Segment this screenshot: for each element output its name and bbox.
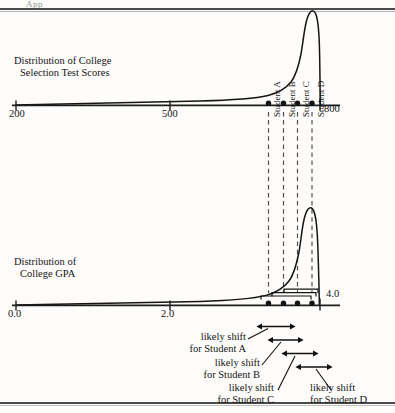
shift-label-student-d-line1: likely shift (310, 382, 388, 394)
panel-title-test-scores: Distribution of College Selection Test S… (14, 55, 111, 80)
regression-toward-mean-figure: App (0, 0, 395, 413)
test-score-point-student-a (266, 101, 271, 106)
panel-title-college-gpa-line1: Distribution of (14, 256, 76, 268)
gpa-point-student-c (295, 301, 300, 306)
gpa-point-student-a (266, 301, 271, 306)
shift-arrows (262, 327, 327, 368)
shift-label-student-c-line2: for Student C (196, 394, 274, 406)
shift-label-student-c-line1: likely shift (196, 382, 274, 394)
panel-title-test-scores-line2: Selection Test Scores (14, 67, 111, 79)
leader-student-c (278, 356, 295, 390)
axis-tick-label-4-0: 4.0 (326, 288, 339, 300)
shift-label-student-d-line2: for Student D (310, 394, 388, 406)
shift-label-student-a-line2: for Student A (168, 343, 246, 355)
student-label-b: Student B (287, 81, 298, 117)
shift-label-student-b-line2: for Student B (182, 369, 260, 381)
student-label-c: Student C (301, 81, 312, 117)
student-connector-lines (269, 112, 313, 293)
gpa-point-student-d (309, 301, 314, 306)
panel-title-college-gpa: Distribution of College GPA (14, 256, 76, 281)
axis-tick-label-500: 500 (162, 108, 178, 120)
panel-title-college-gpa-line2: College GPA (14, 268, 76, 280)
shift-label-student-d: likely shift for Student D (310, 382, 388, 407)
axis-tick-label-200: 200 (9, 108, 25, 120)
gpa-point-student-b (281, 301, 286, 306)
axis-tick-label-2-0: 2.0 (161, 308, 174, 320)
leader-student-a (248, 329, 268, 340)
shift-label-student-b: likely shift for Student B (182, 357, 260, 382)
shift-label-student-b-line1: likely shift (182, 357, 260, 369)
gpa-bracket-student-a (261, 296, 311, 300)
shift-leader-lines (248, 329, 331, 391)
panel-title-test-scores-line1: Distribution of College (14, 55, 111, 67)
axis-tick-label-0-0: 0.0 (8, 308, 21, 320)
student-label-a: Student A (272, 81, 283, 117)
shift-label-student-a: likely shift for Student A (168, 331, 246, 356)
student-label-d: Student D (316, 81, 327, 117)
shift-label-student-a-line1: likely shift (168, 331, 246, 343)
leader-student-b (262, 342, 281, 365)
shift-label-student-c: likely shift for Student C (196, 382, 274, 407)
